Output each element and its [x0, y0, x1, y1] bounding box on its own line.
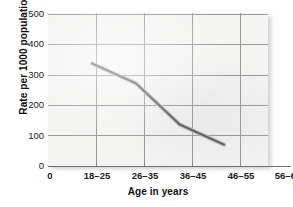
- y-tick-label: 100: [18, 131, 44, 141]
- x-tick-mark-36-45: [192, 160, 193, 166]
- y-tick-label: 200: [18, 100, 44, 110]
- x-tick-mark-18-25: [96, 160, 97, 166]
- x-tick-label-0: 0: [27, 170, 73, 181]
- data-series-line: [48, 13, 268, 166]
- y-tick-label: 300: [18, 70, 44, 80]
- y-tick-label: 400: [18, 39, 44, 49]
- x-tick-label-56-65: 56–65: [265, 170, 293, 181]
- x-tick-mark-26-35: [144, 160, 145, 166]
- x-axis-line: [48, 166, 291, 167]
- series-line-core: [92, 63, 224, 144]
- y-tick-label: 500: [18, 9, 44, 19]
- x-tick-label-36-45: 36–45: [170, 170, 216, 181]
- chart-figure: Rate per 1000 population 500 400 300 200…: [0, 0, 293, 207]
- x-tick-label-46-55: 46–55: [218, 170, 264, 181]
- x-tick-mark-46-55: [240, 160, 241, 166]
- plot-area: [48, 13, 268, 166]
- x-axis-title: Age in years: [48, 186, 268, 197]
- x-tick-label-18-25: 18–25: [74, 170, 120, 181]
- x-tick-label-26-35: 26–35: [122, 170, 168, 181]
